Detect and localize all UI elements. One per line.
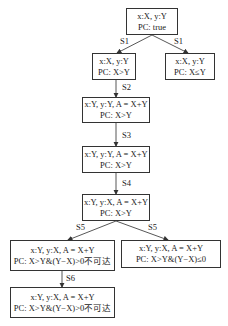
node-state: x:Y, y:X, A = X+Y [84, 197, 148, 208]
node-s4: x:Y, y:X, A = X+Y PC: X>Y [82, 194, 150, 221]
node-pc: PC: X≤Y [174, 67, 206, 78]
edge-label: S1 [174, 36, 183, 46]
node-state: x:X, y:Y [175, 56, 205, 67]
node-pc: PC: X>Y&(Y−X)≤0 [136, 254, 206, 265]
node-state: x:Y, y:X, A = X+Y [30, 245, 94, 256]
node-pc: PC: X>Y [98, 67, 130, 78]
node-s1-true: x:X, y:Y PC: X>Y [92, 53, 136, 80]
node-pc: PC: X>Y [100, 110, 132, 121]
node-pc: PC: X>Y&(Y−X)>0不可达 [14, 256, 111, 267]
node-s5-right: x:Y, y:X, A = X+Y PC: X>Y&(Y−X)≤0 [121, 240, 221, 268]
node-pc: PC: X>Y [100, 160, 132, 171]
edge-label: S4 [122, 178, 131, 188]
node-pc: PC: X>Y [100, 208, 132, 219]
node-pc: PC: X>Y&(Y−X)>0不可达 [14, 303, 111, 314]
node-state: x:Y, y:X, A = X+Y [30, 292, 94, 303]
node-state: x:Y, y:Y, A = X+Y [84, 99, 147, 110]
node-s1-false: x:X, y:Y PC: X≤Y [165, 53, 215, 80]
node-state: x:X, y:Y [137, 11, 167, 22]
edge-label: S5 [148, 222, 157, 232]
node-state: x:X, y:Y [99, 56, 129, 67]
edge-label: S5 [76, 222, 85, 232]
edge-label: S6 [66, 273, 75, 283]
node-s2: x:Y, y:Y, A = X+Y PC: X>Y [82, 97, 150, 123]
node-s6: x:Y, y:X, A = X+Y PC: X>Y&(Y−X)>0不可达 [10, 287, 115, 318]
edge-label: S3 [122, 130, 131, 140]
node-s5-left: x:Y, y:X, A = X+Y PC: X>Y&(Y−X)>0不可达 [10, 240, 115, 271]
node-root: x:X, y:Y PC: true [126, 8, 178, 35]
node-state: x:Y, y:X, A = X+Y [139, 243, 203, 254]
edge-label: S2 [122, 82, 131, 92]
edge-n5-n7 [116, 221, 168, 240]
node-s3: x:Y, y:Y, A = X+Y PC: X>Y [82, 146, 150, 173]
edge-label: S1 [120, 36, 129, 46]
node-state: x:Y, y:Y, A = X+Y [84, 149, 147, 160]
node-pc: PC: true [138, 22, 166, 33]
